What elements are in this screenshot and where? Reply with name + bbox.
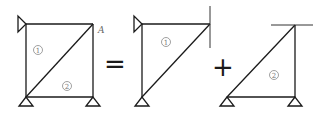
pin-support-bottom-right-icon [86,97,100,106]
member-label-2: 2 [63,82,72,91]
figure-full-structure: 1 2 A [18,16,105,106]
member-label-1: 1 [162,38,171,47]
svg-text:1: 1 [36,47,40,55]
member-label-1: 1 [34,46,43,55]
pin-support-left-top-icon [134,16,142,32]
decomposition-diagram: 1 2 A = 1 + 2 [0,0,325,118]
diagonal-member [142,24,210,97]
equals-sign: = [104,49,126,79]
pin-support-bottom-left-icon [135,97,149,106]
pin-support-bottom-right-icon [288,97,302,106]
plus-sign: + [212,52,234,82]
pin-support-bottom-left-icon [220,97,234,106]
figure-part-1: 1 [134,6,210,106]
diagonal-member [227,25,295,97]
figure-part-2: 2 [220,25,313,106]
pin-support-bottom-left-icon [19,97,33,106]
svg-text:2: 2 [272,72,276,80]
pin-support-left-top-icon [18,16,26,32]
svg-text:2: 2 [65,83,69,91]
svg-text:1: 1 [164,39,168,47]
node-label-a: A [97,25,105,35]
diagonal-member [26,24,93,97]
member-label-2: 2 [270,71,279,80]
